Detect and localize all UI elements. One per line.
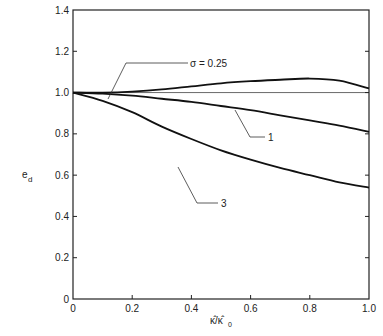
svg-text:κ̂/κ̂: κ̂/κ̂ [210,315,225,326]
x-tick-label: 1.0 [362,303,376,314]
y-tick-label: 0.2 [55,252,69,263]
label-sigma-3: 3 [221,198,227,209]
label-leader-sigma-1 [235,110,265,137]
axis-ticks: 00.20.40.60.81.000.20.40.60.81.01.21.4 [55,5,376,315]
y-tick-label: 0.4 [55,211,69,222]
x-axis-label: κ̂/κ̂ 0 [210,315,232,328]
plot-border [73,10,369,299]
label-sigma-025: σ = 0.25 [190,58,227,69]
x-tick-label: 0.4 [184,303,198,314]
y-tick-label: 1.2 [55,46,69,57]
chart: 00.20.40.60.81.000.20.40.60.81.01.21.4 σ… [0,0,383,336]
y-tick-label: 0.6 [55,170,69,181]
curves [73,79,369,188]
y-axis-label: e d [22,169,32,184]
x-tick-label: 0.6 [244,303,258,314]
svg-text:d: d [28,175,32,184]
x-tick-label: 0 [70,303,76,314]
curve-series-1 [73,93,369,132]
x-tick-label: 0.2 [125,303,139,314]
plot-frame [73,10,369,299]
svg-text:0: 0 [228,321,232,328]
label-sigma-1: 1 [268,132,274,143]
y-tick-label: 1.4 [55,5,69,16]
y-tick-label: 0 [63,294,69,305]
label-leader-sigma-3 [178,167,218,203]
y-tick-label: 1.0 [55,87,69,98]
label-leader-sigma-025 [108,63,188,99]
x-tick-label: 0.8 [303,303,317,314]
y-tick-label: 0.8 [55,128,69,139]
